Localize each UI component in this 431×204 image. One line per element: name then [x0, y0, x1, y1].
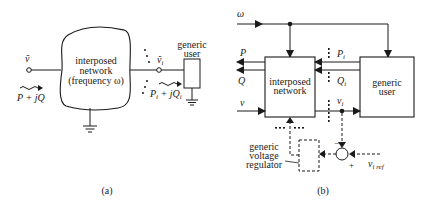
- regulator-output-line: [290, 120, 299, 155]
- user-power-label: Pi + jQi: [149, 88, 182, 101]
- b-user-label-line2: user: [379, 86, 396, 97]
- panel-b: ω interposed network generic user P Q v …: [237, 8, 414, 197]
- caption-a: (a): [101, 185, 112, 197]
- ground-icon: [83, 126, 97, 132]
- input-power-label: P + jQ: [16, 92, 45, 103]
- Qi-label: Qi: [337, 75, 346, 88]
- user-label-line2: user: [184, 48, 201, 59]
- input-terminal: [27, 68, 32, 73]
- power-arrow-icon: [38, 85, 43, 91]
- user-voltage-label: ṽi: [157, 54, 163, 67]
- regulator-label-line3: regulator: [246, 159, 283, 170]
- summing-junction: [336, 148, 348, 160]
- voltage-regulator-box: [299, 140, 319, 171]
- input-voltage-label: ṽ: [25, 53, 30, 64]
- generic-user-box: [184, 59, 200, 88]
- caption-b: (b): [317, 185, 329, 197]
- user-power-flow-icon: [159, 83, 177, 86]
- more-users-dots: [142, 49, 150, 94]
- Pi-label: Pi: [336, 48, 345, 61]
- vi-junction: [340, 109, 345, 114]
- error-arrowhead-icon: [319, 150, 325, 158]
- plus-sign: +: [349, 160, 354, 170]
- vref-label: vi ref: [368, 158, 385, 171]
- diagram-canvas: ṽ P + jQ interposed network (frequency …: [0, 0, 431, 204]
- Q-label: Q: [238, 75, 246, 86]
- vref-arrowhead-icon: [349, 150, 355, 158]
- panel-a: ṽ P + jQ interposed network (frequency …: [16, 27, 207, 197]
- vi-label: vi: [337, 95, 343, 108]
- regulator-leader-line: [285, 161, 299, 163]
- b-network-label-line2: network: [274, 85, 307, 96]
- power-flow-icon: [20, 87, 38, 90]
- user-ground-icon: [186, 100, 198, 105]
- v-label: v: [240, 97, 245, 108]
- regulator-arrowhead-icon: [286, 117, 294, 123]
- P-label: P: [239, 47, 246, 58]
- minus-sign: −: [334, 138, 339, 148]
- user-terminal: [157, 68, 162, 73]
- omega-label: ω: [237, 8, 244, 19]
- user-power-arrow-icon: [177, 81, 182, 87]
- network-label-line3: (frequency ω): [68, 75, 124, 87]
- feedback-arrowhead-icon: [338, 142, 346, 148]
